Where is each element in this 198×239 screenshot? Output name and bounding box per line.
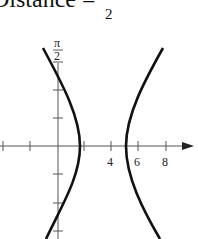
two-label: 2 [54,49,60,63]
polar-graph: π 2 4 6 8 [0,0,198,239]
tick-label-4: 4 [107,155,113,169]
tick-label-8: 8 [162,155,168,169]
left-branch [43,48,80,239]
tick-label-6: 6 [134,155,140,169]
right-branch [126,48,163,239]
pi-label: π [54,36,60,50]
arrow-icon [182,142,194,150]
